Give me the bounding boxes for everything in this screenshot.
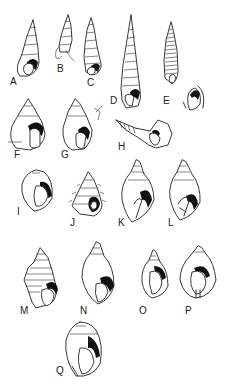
label-d: D	[110, 96, 117, 106]
shell-b	[56, 15, 75, 61]
label-g: G	[61, 150, 69, 160]
shell-q	[66, 322, 102, 376]
shell-c	[84, 18, 101, 75]
shell-i	[22, 170, 53, 211]
label-j: J	[70, 218, 75, 228]
shell-g	[63, 99, 102, 150]
label-n: N	[80, 306, 87, 316]
shell-plate: A B C D E F G H I J K L M N O P Q	[0, 0, 228, 391]
shell-o	[142, 250, 168, 298]
shell-f	[8, 99, 45, 150]
shell-l	[170, 160, 200, 220]
label-m: M	[20, 306, 28, 316]
label-f: F	[14, 150, 20, 160]
shell-drawings	[0, 0, 228, 391]
label-h: H	[118, 142, 125, 152]
shell-n	[82, 242, 114, 304]
label-q: Q	[56, 366, 64, 376]
label-l: L	[168, 218, 174, 228]
shell-a	[17, 20, 39, 76]
shell-p	[180, 246, 216, 298]
shell-k	[122, 160, 154, 222]
label-b: B	[57, 64, 64, 74]
label-e: E	[163, 96, 170, 106]
shell-m	[24, 248, 58, 308]
shell-d	[121, 15, 141, 108]
label-a: A	[10, 77, 17, 87]
label-p: P	[185, 306, 192, 316]
label-k: K	[118, 218, 125, 228]
shell-j	[69, 172, 106, 216]
label-i: I	[17, 207, 20, 217]
label-c: C	[87, 78, 94, 88]
label-o: O	[139, 306, 147, 316]
